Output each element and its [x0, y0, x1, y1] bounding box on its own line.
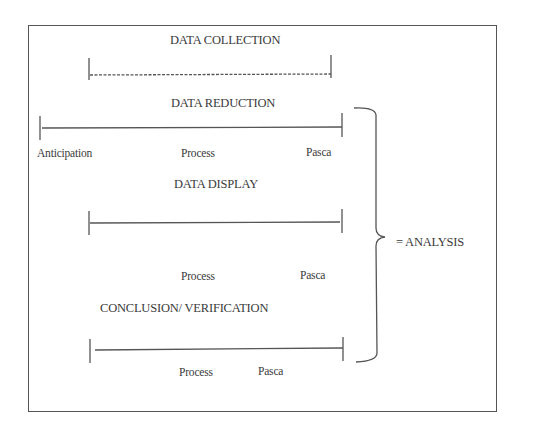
label-process: Process: [179, 366, 213, 378]
stage-title-data-collection: DATA COLLECTION: [170, 33, 280, 48]
label-pasca: Pasca: [306, 146, 331, 158]
stage-title-data-reduction: DATA REDUCTION: [171, 96, 275, 111]
label-process: Process: [181, 270, 215, 282]
label-pasca: Pasca: [258, 365, 283, 377]
stage-title-data-display: DATA DISPLAY: [174, 177, 258, 192]
label-process: Process: [181, 147, 215, 159]
stage-title-conclusion-verification: CONCLUSION/ VERIFICATION: [100, 301, 268, 316]
label-pasca: Pasca: [300, 269, 325, 281]
brace-label-analysis: = ANALYSIS: [396, 235, 464, 250]
label-anticipation: Anticipation: [37, 147, 92, 159]
